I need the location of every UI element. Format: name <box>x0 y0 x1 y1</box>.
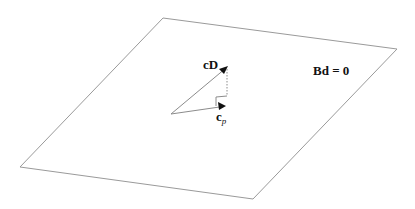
label-cD-text: cD <box>203 57 218 72</box>
label-cp: cp <box>216 109 227 126</box>
label-cD: cD <box>203 57 218 72</box>
plane-equation-text: Bd = 0 <box>313 63 349 78</box>
label-cp-subscript: p <box>221 116 227 126</box>
plane-equation-label: Bd = 0 <box>313 63 349 78</box>
diagram-canvas: cD cp Bd = 0 <box>0 0 415 209</box>
